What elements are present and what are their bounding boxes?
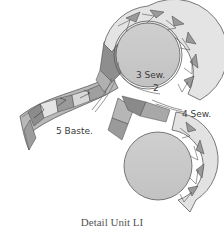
diagram-canvas: 3 Sew. 2 4 Sew. 5 Baste. [0,0,224,236]
bottom-circle [124,132,192,200]
label-step3: 3 Sew. [136,70,165,80]
label-step4: 4 Sew. [182,109,211,119]
label-step5: 5 Baste. [56,126,93,136]
quilt-detail-diagram: 3 Sew. 2 4 Sew. 5 Baste. Detail Unit LI [0,0,224,236]
diagram-caption: Detail Unit LI [0,216,224,228]
label-step2: 2 [153,83,159,93]
